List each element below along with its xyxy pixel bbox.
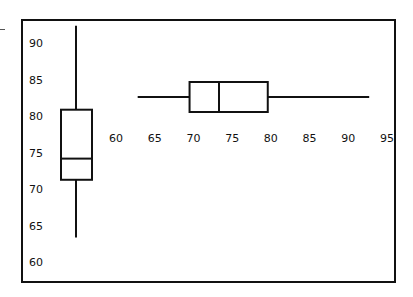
vertical-boxplot <box>61 26 92 238</box>
horizontal-boxplot <box>138 82 370 112</box>
boxplot-canvas <box>0 0 413 297</box>
iqr-box <box>61 110 92 180</box>
iqr-box <box>190 82 268 112</box>
